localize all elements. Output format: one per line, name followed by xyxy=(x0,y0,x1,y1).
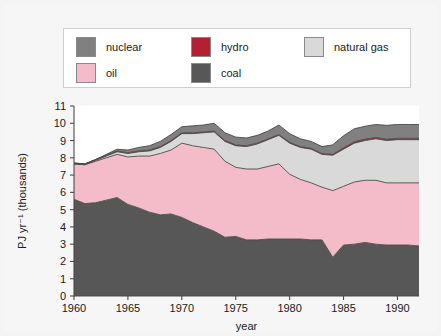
legend-swatch-natural-gas xyxy=(304,37,324,57)
legend-entry-coal[interactable]: coal xyxy=(191,60,241,86)
y-tick-label-1: 1 xyxy=(60,273,66,285)
figure-root: nuclearhydronatural gas oilcoal 01234567… xyxy=(0,0,441,336)
legend-entry-natural-gas[interactable]: natural gas xyxy=(304,34,388,60)
x-tick-label-1960: 1960 xyxy=(62,302,86,314)
legend-row-bottom: oilcoal xyxy=(64,60,410,86)
legend-label-coal: coal xyxy=(221,68,241,79)
legend-label-oil: oil xyxy=(106,68,117,79)
y-tick-label-9: 9 xyxy=(60,135,66,147)
figure-canvas: nuclearhydronatural gas oilcoal 01234567… xyxy=(4,4,437,332)
legend-label-hydro: hydro xyxy=(221,42,249,53)
y-axis-title: PJ yr⁻¹ (thousands) xyxy=(16,153,28,249)
x-tick-label-1970: 1970 xyxy=(170,302,194,314)
legend-label-natural-gas: natural gas xyxy=(334,42,388,53)
x-tick-label-1965: 1965 xyxy=(116,302,140,314)
legend-swatch-nuclear xyxy=(76,37,96,57)
x-tick-label-1975: 1975 xyxy=(223,302,247,314)
x-tick-label-1980: 1980 xyxy=(277,302,301,314)
y-tick-label-8: 8 xyxy=(60,152,66,164)
y-tick-label-10: 10 xyxy=(54,117,66,129)
legend-row-top: nuclearhydronatural gas xyxy=(64,34,410,60)
legend-entry-nuclear[interactable]: nuclear xyxy=(76,34,142,60)
y-tick-label-2: 2 xyxy=(60,255,66,267)
y-tick-label-11: 11 xyxy=(55,100,66,112)
legend-swatch-oil xyxy=(76,63,96,83)
y-axis-tick-labels: 01234567891011 xyxy=(54,100,66,302)
chart-legend: nuclearhydronatural gas oilcoal xyxy=(63,28,411,88)
y-tick-label-0: 0 xyxy=(60,290,66,302)
y-tick-label-4: 4 xyxy=(60,221,66,233)
plot-area-wrapper: 01234567891011 1960196519701975198019851… xyxy=(4,96,437,332)
y-tick-label-6: 6 xyxy=(60,186,66,198)
x-tick-label-1990: 1990 xyxy=(385,302,409,314)
legend-entry-hydro[interactable]: hydro xyxy=(191,34,249,60)
legend-entry-oil[interactable]: oil xyxy=(76,60,117,86)
y-tick-label-3: 3 xyxy=(60,238,66,250)
y-tick-label-5: 5 xyxy=(60,204,66,216)
x-axis-tick-labels: 1960196519701975198019851990 xyxy=(62,302,410,314)
stacked-area-chart: 01234567891011 1960196519701975198019851… xyxy=(4,96,437,332)
legend-label-nuclear: nuclear xyxy=(106,42,142,53)
x-tick-label-1985: 1985 xyxy=(331,302,355,314)
x-axis-title: year xyxy=(236,320,258,332)
y-tick-label-7: 7 xyxy=(60,169,66,181)
legend-swatch-hydro xyxy=(191,37,211,57)
legend-swatch-coal xyxy=(191,63,211,83)
